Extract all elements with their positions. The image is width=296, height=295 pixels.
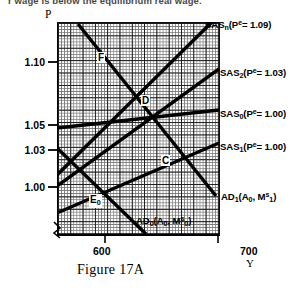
y-tick-label-1-05: 1.05 <box>5 119 45 131</box>
curve-label-ad-0: AD0(A0, Ms0) <box>136 215 191 228</box>
curve-label-sas-2-paren: (P <box>243 67 252 78</box>
point-label-c: C <box>161 155 170 166</box>
curve-label-ad-0-mid: , M <box>167 215 180 226</box>
curve-label-ad-0-tail: ) <box>188 215 191 226</box>
point-label-e0: E0 <box>89 194 102 208</box>
curve-label-ad-1-name: AD <box>221 191 235 202</box>
curve-label-sas-1-tail: = 1.00) <box>257 141 286 152</box>
y-tick-label-1-10: 1.10 <box>5 56 45 68</box>
truncated-header-text: r wage is below the equilibrium real wag… <box>8 0 288 7</box>
curve-label-sas-0-name: SAS <box>220 108 239 119</box>
point-label-d: D <box>141 95 150 106</box>
y-tick-label-1-03: 1.03 <box>5 144 45 156</box>
curve-label-sas-2-name: SAS <box>220 67 239 78</box>
y-tick-label-1-00: 1.00 <box>5 181 45 193</box>
curve-label-sas-1: SAS1(Pe= 1.00) <box>220 141 286 154</box>
point-label-e0-name: E <box>90 194 97 205</box>
curve-label-ad-1-mid: , M <box>252 191 265 202</box>
figure-caption: Figure 17A <box>77 262 144 278</box>
x-tick-label-600: 600 <box>93 245 111 257</box>
curve-label-sas-1-name: SAS <box>220 141 239 152</box>
point-label-e0-sub: 0 <box>97 198 101 207</box>
curve-label-sas-0-paren: (P <box>243 108 252 119</box>
curve-label-sas-n-tail: = 1.09) <box>242 19 271 30</box>
x-axis-label: Y <box>246 257 254 269</box>
curve-label-ad-1-paren: (A <box>239 191 249 202</box>
curve-label-ad-0-paren: (A <box>154 215 164 226</box>
curve-label-sas-n-paren: (P <box>229 19 238 30</box>
curve-label-sas-0-tail: = 1.00) <box>257 108 286 119</box>
x-tick-label-700: 700 <box>240 245 258 257</box>
curve-label-sas-2: SAS2(Pe= 1.03) <box>220 67 286 80</box>
curve-label-sas-1-paren: (P <box>243 141 252 152</box>
curve-label-ad-1-tail: ) <box>273 191 276 202</box>
curve-label-sas-0: SAS0(Pe= 1.00) <box>220 108 286 121</box>
curve-label-ad-0-name: AD <box>136 215 150 226</box>
curve-label-sas-2-tail: = 1.03) <box>257 67 286 78</box>
curve-label-sas-n: SASn(Pe= 1.09) <box>205 19 271 32</box>
curve-label-sas-n-name: SAS <box>205 19 224 30</box>
plot-area <box>57 22 220 236</box>
point-label-f: F <box>97 52 105 63</box>
y-axis-label: P <box>45 8 51 20</box>
curve-label-ad-1: AD1(A0, Ms1) <box>221 191 276 204</box>
figure-container: r wage is below the equilibrium real wag… <box>0 0 296 295</box>
